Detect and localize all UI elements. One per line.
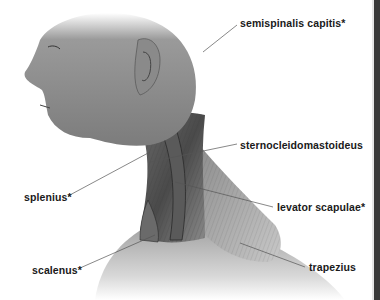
label-scalenus: scalenus* [32,264,82,276]
label-semispinalis-capitis: semispinalis capitis* [240,17,345,29]
label-trapezius: trapezius [309,261,356,273]
label-levator-scapulae: levator scapulae* [277,201,365,213]
label-splenius: splenius* [24,191,72,203]
anatomy-figure: semispinalis capitis* sternocleidomastoi… [0,0,380,300]
frame-border [374,0,380,300]
label-sternocleidomastoideus: sternocleidomastoideus [240,139,363,151]
